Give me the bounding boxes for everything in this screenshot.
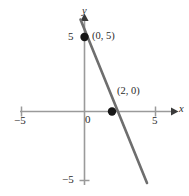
x-tick-label-negative-5: −5 xyxy=(14,115,26,126)
x-axis-arrowhead xyxy=(171,107,179,115)
y-tick-label-positive-5: 5 xyxy=(68,31,74,42)
point-label-y-intercept: (0, 5) xyxy=(92,31,115,42)
point-marker-y-intercept xyxy=(80,33,88,41)
point-marker-x-intercept xyxy=(108,107,116,115)
y-axis-label: y xyxy=(82,6,87,17)
x-tick-label-positive-5: 5 xyxy=(152,115,158,126)
x-axis-label: x xyxy=(179,104,184,115)
plotted-line xyxy=(81,20,148,184)
y-tick-label-negative-5: −5 xyxy=(62,174,74,185)
origin-label: 0 xyxy=(85,114,91,125)
coordinate-plane-figure: x y −5 5 0 5 −5 (0, 5) (2, 0) xyxy=(0,0,189,196)
point-label-x-intercept: (2, 0) xyxy=(117,86,140,97)
